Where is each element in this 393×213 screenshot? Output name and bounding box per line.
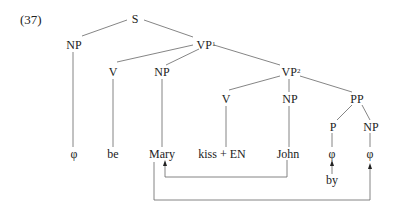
node-np-john: NP bbox=[282, 93, 297, 105]
arrow-john-to-mary bbox=[165, 160, 287, 177]
node-p: P bbox=[330, 121, 337, 133]
node-np-subject: NP bbox=[66, 39, 81, 51]
leaf-be: be bbox=[107, 148, 118, 160]
leaf-phi-subject: φ bbox=[71, 148, 78, 160]
node-v-kiss: V bbox=[222, 93, 231, 105]
leaf-phi-p: φ bbox=[329, 148, 336, 160]
leaf-mary: Mary bbox=[149, 148, 175, 160]
leaf-john: John bbox=[277, 148, 300, 160]
node-s: S bbox=[132, 13, 139, 25]
node-vp1: VP1 bbox=[197, 39, 216, 51]
leaf-phi-np: φ bbox=[367, 148, 374, 160]
leaf-kiss-en: kiss + EN bbox=[198, 148, 245, 160]
leaf-by: by bbox=[326, 174, 338, 186]
node-np-object: NP bbox=[154, 66, 169, 78]
node-np-pp: NP bbox=[363, 121, 378, 133]
node-v-be: V bbox=[109, 66, 118, 78]
node-vp2: VP2 bbox=[282, 66, 301, 78]
node-pp: PP bbox=[350, 93, 363, 105]
